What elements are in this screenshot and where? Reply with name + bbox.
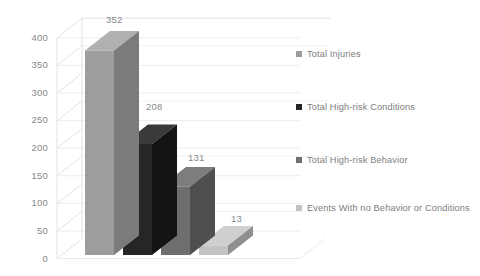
legend-swatch-icon-events-with-no-behavior-or-conditions [296, 205, 302, 211]
legend-item-events-with-no-behavior-or-conditions[interactable]: Events With no Behavior or Conditions [296, 203, 470, 213]
y-tick-350: 350 [14, 59, 48, 70]
y-tick-300: 300 [14, 87, 48, 98]
legend-swatch-icon-total-injuries [296, 51, 302, 57]
y-tick-150: 150 [14, 170, 48, 181]
legend-label-events-with-no-behavior-or-conditions: Events With no Behavior or Conditions [307, 203, 470, 213]
legend-label-total-high-risk-behavior: Total High-risk Behavior [307, 155, 408, 165]
bar-chart: 400 350 300 250 200 150 100 50 0 352 208… [0, 0, 480, 276]
data-label-total-high-risk-behavior: 131 [188, 152, 204, 163]
data-label-total-injuries: 352 [106, 14, 122, 25]
legend-item-total-high-risk-conditions[interactable]: Total High-risk Conditions [296, 102, 415, 112]
y-tick-50: 50 [14, 225, 48, 236]
bar-total-injuries [85, 31, 139, 255]
legend-swatch-icon-total-high-risk-conditions [296, 104, 302, 110]
chart-legend: Total Injuries Total High-risk Condition… [296, 0, 480, 276]
data-label-events-with-no-behavior-or-conditions: 13 [231, 213, 242, 224]
y-tick-0: 0 [14, 253, 48, 264]
legend-item-total-injuries[interactable]: Total Injuries [296, 49, 361, 59]
legend-label-total-high-risk-conditions: Total High-risk Conditions [307, 102, 415, 112]
legend-label-total-injuries: Total Injuries [307, 49, 361, 59]
y-tick-250: 250 [14, 114, 48, 125]
legend-item-total-high-risk-behavior[interactable]: Total High-risk Behavior [296, 155, 408, 165]
y-tick-200: 200 [14, 142, 48, 153]
legend-swatch-icon-total-high-risk-behavior [296, 157, 302, 163]
y-tick-400: 400 [14, 32, 48, 43]
data-label-total-high-risk-conditions: 208 [146, 101, 162, 112]
y-tick-100: 100 [14, 197, 48, 208]
